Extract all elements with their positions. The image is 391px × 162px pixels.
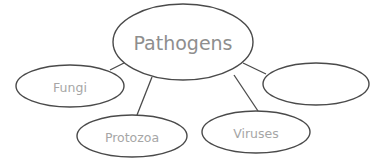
concept-map-canvas: Pathogens Fungi Protozoa Viruses [0, 0, 391, 162]
node-blank-ellipse [263, 63, 369, 105]
node-pathogens: Pathogens [113, 4, 253, 80]
node-blank [263, 63, 369, 105]
node-viruses-label: Viruses [233, 126, 279, 141]
node-fungi: Fungi [16, 65, 124, 107]
node-pathogens-label: Pathogens [133, 32, 232, 54]
connector-protozoa [137, 77, 152, 115]
node-viruses: Viruses [202, 111, 310, 153]
connector-blank [243, 63, 266, 74]
node-protozoa-label: Protozoa [105, 130, 159, 145]
concept-map: Pathogens Fungi Protozoa Viruses [0, 0, 391, 162]
connector-viruses [234, 75, 258, 111]
node-protozoa: Protozoa [77, 115, 187, 157]
node-fungi-label: Fungi [53, 80, 87, 95]
connector-fungi [110, 63, 124, 70]
